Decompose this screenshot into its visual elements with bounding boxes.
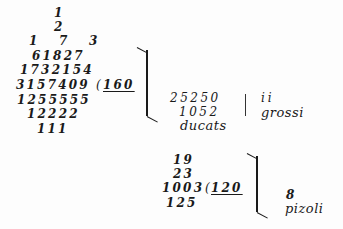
pizoli-value: 8 [286,189,297,201]
ducats-label: ducats [180,120,227,132]
galley-row: 1 7 3 [29,35,98,47]
galley-row: 125 [166,197,198,209]
ducats-row: 25250 [170,92,221,104]
galley-row: 61827 [32,50,85,62]
separator-bar [245,94,246,116]
grossi-label: grossi [261,107,304,119]
manuscript-page: 1 2 1 7 3 61827 1732154 3157409 ( 160 12… [0,0,343,229]
galley-row: 23 [173,168,194,180]
pizoli-label: pizoli [285,203,323,215]
galley-row: 111 [37,123,69,135]
galley-row-dividend: 3157409 [16,79,90,91]
ducats-row: 1052 [179,106,220,118]
galley-row: 1732154 [20,64,94,76]
grossi-value: ii [261,92,275,104]
galley-row: 19 [173,154,194,166]
galley-row: 1255555 [17,94,91,106]
galley-row: 12222 [27,108,80,120]
divisor: 120 [211,182,243,194]
divisor: 160 [103,79,135,91]
galley-row: 2 [54,21,65,33]
galley-row: 1 [54,7,65,19]
divisor-paren: ( [96,79,103,91]
galley-row-dividend: 1003 [162,182,204,194]
